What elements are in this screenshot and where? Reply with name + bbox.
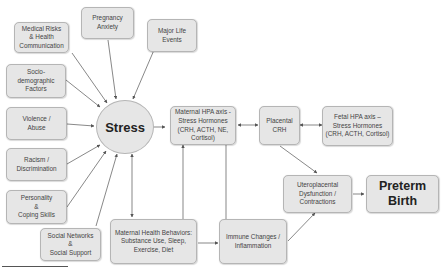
stress-node: Stress: [96, 100, 154, 154]
factor-personality-coping: Personality & Coping Skills: [6, 190, 67, 224]
immune-changes-node: Immune Changes / Inflammation: [219, 219, 287, 264]
factor-sociodemographic: Socio- demographic Factors: [6, 64, 66, 98]
footnote-rule: [2, 266, 68, 267]
factor-pregnancy-anxiety: Pregnancy Anxiety: [81, 7, 134, 39]
factor-major-life-events: Major Life Events: [147, 19, 197, 52]
health-behaviors-node: Maternal Health Behaviors: Substance Use…: [110, 219, 197, 264]
factor-violence-abuse: Violence / Abuse: [6, 107, 67, 140]
preterm-birth-node: Preterm Birth: [366, 175, 439, 213]
fetal-hpa-node: Fetal HPA axis – Stress Hormones (CRH, A…: [322, 106, 393, 146]
factor-social-networks: Social Networks & Social Support: [40, 228, 101, 261]
uteroplacental-node: Uteroplacental Dysfunction / Contraction…: [283, 175, 352, 213]
factor-racism-discrimination: Racism / Discrimination: [6, 148, 67, 181]
placental-crh-node: Placental CRH: [259, 106, 300, 145]
factor-medical-risks: Medical Risks & Health Communication: [14, 22, 69, 53]
maternal-hpa-node: Maternal HPA axis - Stress Hormones (CRH…: [170, 106, 236, 145]
